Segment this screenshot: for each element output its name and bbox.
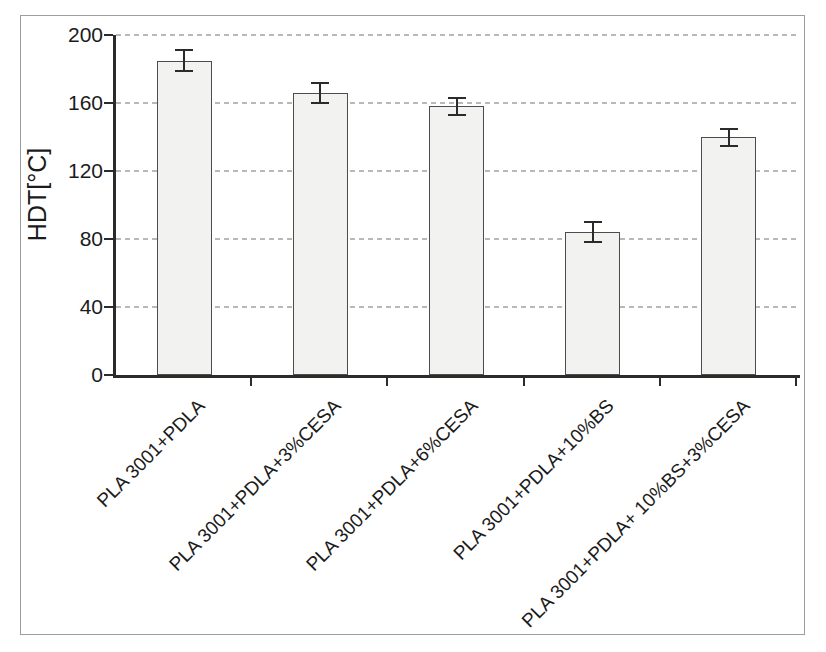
x-category-label: PLA 3001+PDLA+3%CESA — [90, 395, 346, 651]
y-axis-tick — [104, 238, 113, 240]
error-bar — [728, 129, 730, 146]
bar — [701, 137, 756, 375]
x-category-label: PLA 3001+PDLA+10%BS — [362, 395, 618, 651]
y-tick-label: 40 — [35, 295, 103, 319]
y-tick-label: 0 — [35, 363, 103, 387]
x-axis-line — [113, 375, 800, 378]
error-bar-cap-top — [311, 82, 329, 84]
y-tick-label: 200 — [35, 23, 103, 47]
x-axis-tick — [250, 378, 252, 386]
y-tick-label: 160 — [35, 91, 103, 115]
bar — [157, 61, 212, 376]
plot-area: HDT[°C] 04080120160200PLA 3001+PDLAPLA 3… — [0, 0, 826, 652]
x-category-label: PLA 3001+PDLA+ 10%BS+3%CESA — [498, 395, 754, 651]
gridline — [116, 34, 797, 36]
y-axis-tick — [104, 170, 113, 172]
error-bar-cap-bottom — [311, 102, 329, 104]
y-axis-tick — [104, 374, 113, 376]
error-bar-cap-top — [448, 97, 466, 99]
error-bar-cap-bottom — [448, 114, 466, 116]
y-axis-line — [113, 35, 116, 378]
y-tick-label: 120 — [35, 159, 103, 183]
error-bar — [319, 83, 321, 103]
bar — [429, 106, 484, 375]
error-bar-cap-bottom — [175, 70, 193, 72]
x-axis-tick — [386, 378, 388, 386]
error-bar-cap-top — [720, 128, 738, 130]
chart-figure: HDT[°C] 04080120160200PLA 3001+PDLAPLA 3… — [0, 0, 826, 652]
error-bar — [456, 98, 458, 115]
error-bar-cap-bottom — [584, 241, 602, 243]
bar — [565, 232, 620, 375]
error-bar-cap-top — [584, 221, 602, 223]
error-bar-cap-bottom — [720, 145, 738, 147]
x-axis-tick — [659, 378, 661, 386]
error-bar-cap-top — [175, 49, 193, 51]
error-bar — [183, 50, 185, 70]
x-category-label: PLA 3001+PDLA+6%CESA — [226, 395, 482, 651]
x-category-label: PLA 3001+PDLA — [0, 395, 210, 651]
y-tick-label: 80 — [35, 227, 103, 251]
y-axis-tick — [104, 102, 113, 104]
y-axis-tick — [104, 34, 113, 36]
error-bar — [592, 222, 594, 242]
x-axis-tick — [523, 378, 525, 386]
bar — [293, 93, 348, 375]
x-axis-tick — [795, 378, 797, 386]
y-axis-tick — [104, 306, 113, 308]
